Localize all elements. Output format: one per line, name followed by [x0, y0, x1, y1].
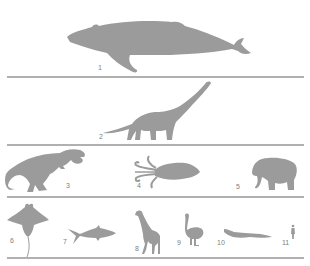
label-whale: 1 [98, 64, 102, 72]
row-divider [7, 196, 304, 198]
row-divider [7, 76, 304, 78]
ostrich-icon [185, 214, 203, 246]
tyrannosaurus-icon [5, 149, 85, 192]
label-elephant: 5 [236, 183, 240, 191]
label-human: 11 [282, 239, 289, 247]
label-manta-ray: 6 [10, 237, 14, 245]
row-divider [7, 257, 304, 259]
shark-icon [68, 225, 116, 244]
human-icon [291, 225, 295, 239]
label-squid: 4 [137, 182, 141, 190]
elephant-icon [252, 158, 297, 190]
size-comparison-figure: 1 2 3 4 5 6 7 8 9 10 11 [0, 0, 310, 266]
label-ostrich: 9 [177, 239, 181, 247]
label-shark: 7 [63, 238, 67, 246]
label-giraffe: 8 [135, 245, 139, 253]
silhouettes-layer [0, 0, 310, 266]
sauropod-icon [103, 82, 211, 140]
label-sauropod: 2 [99, 133, 103, 141]
squid-icon [135, 156, 200, 188]
whale-icon [67, 21, 251, 72]
crocodile-icon [224, 229, 272, 238]
label-crocodile: 10 [217, 239, 225, 247]
label-tyrannosaurus: 3 [66, 182, 70, 190]
row-divider [7, 144, 304, 146]
manta-ray-icon [7, 204, 49, 257]
